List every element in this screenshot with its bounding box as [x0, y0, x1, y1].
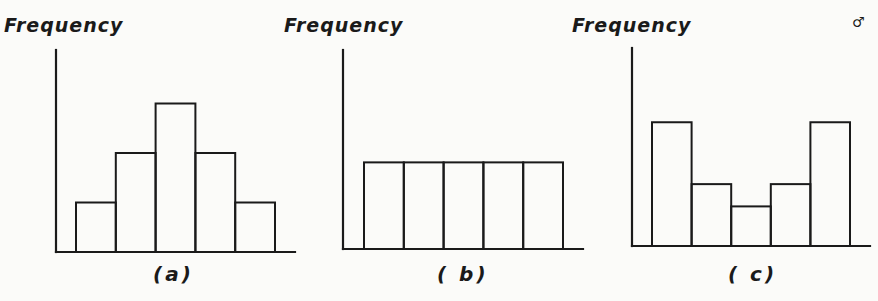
- histogram-bar: [652, 122, 692, 246]
- histogram-bar: [771, 184, 811, 246]
- histogram-bar: [731, 206, 771, 246]
- histogram-panel-c: Frequency ( c): [0, 0, 878, 301]
- histogram-bar: [810, 122, 850, 246]
- corner-mark-icon: ♂: [852, 14, 865, 30]
- histogram-plot-c: [0, 0, 878, 301]
- panel-caption: ( c): [728, 262, 777, 286]
- histogram-bar: [692, 184, 732, 246]
